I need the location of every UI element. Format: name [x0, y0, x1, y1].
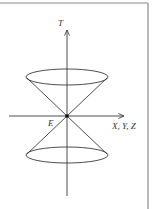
light-cone-figure: T E X, Y, Z	[0, 0, 153, 209]
event-label: E	[48, 119, 54, 128]
time-axis-label: T	[58, 19, 63, 28]
space-axes-label: X, Y, Z	[112, 122, 136, 131]
light-cone-diagram	[0, 0, 153, 209]
event-point	[65, 114, 69, 118]
